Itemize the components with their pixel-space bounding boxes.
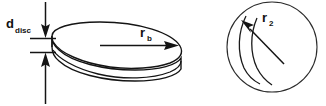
impeller-outer-circle: [227, 2, 317, 92]
label-r-b-base: r: [140, 25, 145, 40]
disc-perspective-view: d disc r b: [6, 2, 182, 104]
figure-container: d disc r b r 2: [0, 0, 326, 106]
radius-arrow-r2: [241, 20, 284, 64]
label-r-b-subscript: b: [147, 34, 152, 43]
technical-diagram: d disc r b r 2: [0, 0, 326, 106]
thickness-arrow-top: [41, 2, 50, 38]
thickness-arrow-bottom: [41, 53, 50, 105]
label-r-2: r 2: [262, 10, 274, 28]
label-r-2-subscript: 2: [269, 19, 274, 28]
label-d-disc-subscript: disc: [15, 26, 32, 35]
r2-arrow-shaft: [250, 29, 284, 64]
label-d-disc: d disc: [6, 16, 32, 35]
blade-arc-outer: [252, 18, 272, 85]
label-d-disc-base: d: [6, 16, 14, 31]
label-r-2-base: r: [262, 10, 267, 25]
impeller-plan-view: r 2: [227, 2, 317, 92]
